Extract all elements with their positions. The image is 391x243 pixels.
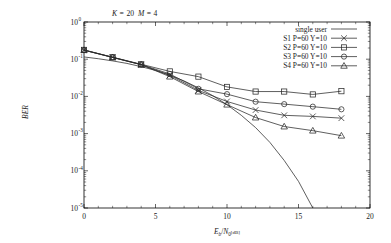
y-tick-label: 10-3 bbox=[71, 127, 84, 138]
svg-text:10: 10 bbox=[71, 18, 79, 27]
x-tick-label: 5 bbox=[154, 212, 158, 221]
svg-text:-4: -4 bbox=[79, 165, 84, 171]
legend-item-1[interactable]: single user bbox=[295, 25, 357, 34]
x-axis-label-text: Eb/N0[dB] bbox=[213, 227, 240, 237]
data-series bbox=[81, 47, 345, 208]
plot-frame bbox=[84, 22, 370, 208]
svg-text:10: 10 bbox=[71, 92, 79, 101]
plot-title: K=20M=4 bbox=[111, 9, 158, 18]
ber-vs-ebno-plot: 0510152010010-110-210-310-410-5 single u… bbox=[0, 0, 391, 243]
y-tick-label: 10-1 bbox=[71, 53, 84, 64]
svg-text:10: 10 bbox=[71, 55, 79, 64]
legend-item-5[interactable]: S4 P=60 Y=10 bbox=[283, 61, 357, 70]
legend: single userS1 P=60 Y=10S2 P=60 Y=10S3 P=… bbox=[283, 25, 357, 71]
chart-figure: 0510152010010-110-210-310-410-5 single u… bbox=[0, 0, 391, 243]
axes bbox=[84, 22, 370, 208]
legend-label: S2 P=60 Y=10 bbox=[283, 43, 327, 52]
legend-item-2[interactable]: S1 P=60 Y=10 bbox=[283, 34, 357, 43]
tick-labels: 0510152010010-110-210-310-410-5 bbox=[71, 16, 375, 221]
svg-text:-3: -3 bbox=[79, 127, 84, 133]
x-tick-label: 10 bbox=[223, 212, 231, 221]
x-tick-label: 0 bbox=[82, 212, 86, 221]
svg-text:0: 0 bbox=[79, 16, 82, 22]
svg-text:10: 10 bbox=[71, 129, 79, 138]
y-tick-label: 10-5 bbox=[71, 202, 84, 213]
y-tick-label: 10-4 bbox=[71, 165, 84, 176]
legend-item-3[interactable]: S2 P=60 Y=10 bbox=[283, 43, 357, 52]
svg-text:10: 10 bbox=[71, 204, 79, 213]
x-tick-label: 15 bbox=[295, 212, 303, 221]
legend-item-4[interactable]: S3 P=60 Y=10 bbox=[283, 52, 357, 61]
legend-label: S1 P=60 Y=10 bbox=[283, 34, 327, 43]
y-tick-label: 10-2 bbox=[71, 90, 84, 101]
legend-label: single user bbox=[295, 25, 327, 34]
svg-text:-5: -5 bbox=[79, 202, 84, 208]
y-axis-label: BER bbox=[21, 105, 30, 119]
y-tick-label: 100 bbox=[71, 16, 82, 27]
legend-label: S3 P=60 Y=10 bbox=[283, 52, 327, 61]
tick-marks bbox=[84, 22, 370, 208]
svg-text:10: 10 bbox=[71, 166, 79, 175]
legend-label: S4 P=60 Y=10 bbox=[283, 61, 327, 70]
svg-text:-1: -1 bbox=[79, 53, 84, 59]
x-axis-label: Eb/N0[dB] bbox=[213, 227, 240, 237]
x-tick-label: 20 bbox=[366, 212, 374, 221]
svg-text:-2: -2 bbox=[79, 90, 84, 96]
marker-triangle bbox=[341, 63, 348, 69]
